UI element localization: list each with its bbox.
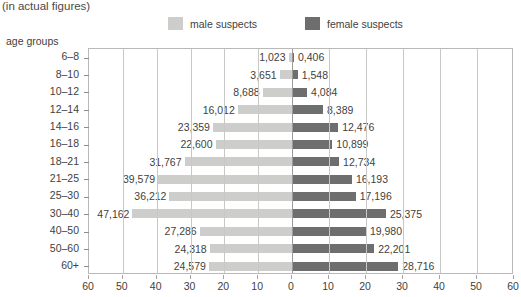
x-axis-tick — [513, 275, 514, 279]
bar-female — [292, 209, 386, 218]
bar-row: 36,21217,196 — [89, 188, 512, 205]
bar-female — [292, 244, 374, 253]
bar-value-label-female: 22,201 — [378, 240, 410, 257]
x-axis-label: 50 — [116, 280, 128, 292]
y-axis-tick — [84, 249, 89, 250]
y-axis-tick — [84, 179, 89, 180]
bar-female — [292, 123, 338, 132]
bar-value-label-male: 24,579 — [146, 258, 206, 275]
y-axis-category-labels: 6–88–1010–1212–1414–1616–1818–2121–2525–… — [10, 48, 83, 274]
bar-value-label-male: 22,600 — [153, 136, 213, 153]
bar-value-label-male: 16,012 — [175, 101, 235, 118]
bar-female — [292, 192, 356, 201]
gridline — [224, 49, 225, 273]
bar-value-label-male: 1,023 — [226, 49, 286, 66]
bar-female — [292, 262, 398, 271]
bar-female — [292, 157, 339, 166]
y-axis-tick — [84, 145, 89, 146]
bar-female — [292, 140, 332, 149]
bar-male — [185, 157, 292, 166]
bar-value-label-male: 31,767 — [122, 153, 182, 170]
gridline — [477, 49, 478, 273]
y-axis-label: 8–10 — [10, 65, 83, 82]
bar-male — [216, 140, 292, 149]
bar-row: 39,57916,193 — [89, 171, 512, 188]
x-axis-label: 60 — [507, 280, 519, 292]
y-axis-label: 10–12 — [10, 83, 83, 100]
x-axis-tick — [122, 275, 123, 279]
gridline — [258, 49, 259, 273]
bar-row: 8,6884,084 — [89, 84, 512, 101]
y-axis-tick — [84, 92, 89, 93]
x-axis-label: 40 — [433, 280, 445, 292]
x-axis-tick — [476, 275, 477, 279]
x-axis-tick — [365, 275, 366, 279]
gridline — [329, 49, 330, 273]
gridline — [440, 49, 441, 273]
bar-row: 23,35912,476 — [89, 119, 512, 136]
gridline — [366, 49, 367, 273]
y-axis-tick — [84, 197, 89, 198]
gridline — [403, 49, 404, 273]
x-axis-label: 30 — [396, 280, 408, 292]
bar-row: 31,76712,734 — [89, 153, 512, 170]
bar-male — [209, 262, 292, 271]
bar-value-label-male: 8,688 — [200, 84, 260, 101]
chart-legend: male suspects female suspects — [0, 17, 521, 33]
legend-swatch-icon-male — [168, 17, 183, 30]
chart-subtitle: (in actual figures) — [2, 0, 90, 12]
bar-male — [210, 244, 292, 253]
x-axis-label: 10 — [322, 280, 334, 292]
legend-swatch-icon-female — [305, 17, 320, 30]
bar-value-label-female: 19,980 — [370, 223, 402, 240]
bar-male — [263, 88, 292, 97]
x-axis-label: 10 — [251, 280, 263, 292]
y-axis-tick — [84, 75, 89, 76]
x-axis-label: 20 — [359, 280, 371, 292]
x-axis-label: 0 — [288, 280, 294, 292]
legend-item-female: female suspects — [305, 17, 403, 30]
x-axis-label: 60 — [82, 280, 94, 292]
x-axis-tick — [257, 275, 258, 279]
bar-row: 24,57928,716 — [89, 258, 512, 275]
bar-row: 3,6511,548 — [89, 66, 512, 83]
x-axis-tick — [328, 275, 329, 279]
y-axis-label: 14–16 — [10, 118, 83, 135]
x-axis-tick — [439, 275, 440, 279]
bar-row: 24,31822,201 — [89, 240, 512, 257]
bar-value-label-female: 0,406 — [298, 49, 324, 66]
x-axis-tick — [156, 275, 157, 279]
bar-row: 27,28619,980 — [89, 223, 512, 240]
bar-value-label-female: 12,476 — [342, 119, 374, 136]
bar-value-label-female: 1,548 — [302, 66, 328, 83]
y-axis-label: 16–18 — [10, 135, 83, 152]
zero-axis-line — [292, 49, 293, 273]
x-axis-label: 50 — [470, 280, 482, 292]
bar-male — [169, 192, 292, 201]
y-axis-tick — [84, 127, 89, 128]
gridline — [157, 49, 158, 273]
bar-value-label-male: 39,579 — [95, 171, 155, 188]
legend-label-female: female suspects — [327, 18, 403, 30]
y-axis-label: 60+ — [10, 257, 83, 274]
bar-female — [292, 88, 307, 97]
gridline — [191, 49, 192, 273]
bar-female — [292, 175, 352, 184]
chart-container: (in actual figures) male suspects female… — [0, 0, 521, 297]
bar-value-label-female: 17,196 — [360, 188, 392, 205]
x-axis-tick — [291, 275, 292, 279]
bar-male — [280, 70, 292, 79]
y-axis-label: 25–30 — [10, 187, 83, 204]
y-axis-label: 6–8 — [10, 48, 83, 65]
x-axis-label: 30 — [184, 280, 196, 292]
y-axis-tick — [84, 110, 89, 111]
bar-female — [292, 105, 323, 114]
bar-value-label-female: 8,389 — [327, 101, 353, 118]
y-axis-tick — [84, 232, 89, 233]
y-axis-label: 18–21 — [10, 152, 83, 169]
x-axis-tick — [88, 275, 89, 279]
bar-male — [238, 105, 292, 114]
y-axis-tick — [84, 58, 89, 59]
legend-item-male: male suspects — [168, 17, 257, 30]
y-axis-title: age groups — [6, 35, 59, 47]
